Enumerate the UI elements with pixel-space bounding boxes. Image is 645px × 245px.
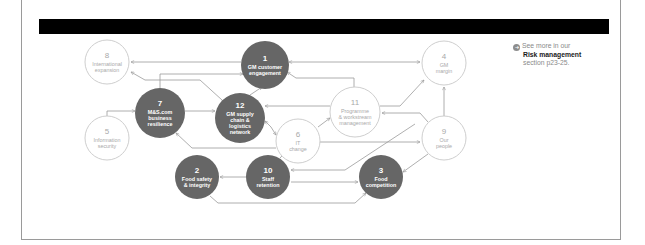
node-label: security [98, 143, 117, 149]
node-number: 2 [195, 166, 200, 175]
node-number: 8 [105, 51, 110, 60]
node-label: Our [440, 137, 449, 143]
node-label: GM supply [226, 111, 254, 117]
node-label: Staff [262, 176, 274, 182]
node-label: logistics [229, 123, 251, 129]
node-label: network [230, 129, 251, 135]
node-label: Food [374, 176, 387, 182]
node-label: GM customer [248, 64, 283, 70]
node-label: expansion [95, 67, 120, 73]
node-number: 11 [351, 98, 360, 107]
node-label: competition [366, 182, 397, 188]
risk-node-5: 5Informationsecurity [85, 116, 129, 160]
node-label: engagement [249, 70, 281, 76]
more-info-icon[interactable]: ➜ [513, 44, 520, 51]
risk-node-12: 12GM supplychain &logisticsnetwork [215, 93, 265, 143]
connector-6-to-11 [318, 118, 330, 127]
risk-node-6: 6ITchange [276, 119, 320, 163]
connector-11-to-4 [380, 80, 424, 106]
connector-5-to-7 [107, 111, 135, 116]
node-label: Information [94, 137, 121, 143]
note-line-3: section p23-25. [513, 59, 613, 67]
node-label: & workstream [339, 114, 372, 120]
node-label: International [92, 61, 122, 67]
node-number: 7 [158, 99, 163, 108]
node-label: retention [256, 182, 279, 188]
node-number: 4 [442, 52, 447, 61]
node-label: Food safety [182, 176, 212, 182]
node-label: chain & [230, 117, 250, 123]
node-label: management [339, 120, 371, 126]
risk-node-8: 8Internationalexpansion [85, 40, 129, 84]
node-number: 6 [296, 130, 301, 139]
risk-management-link[interactable]: Risk management [513, 51, 613, 59]
node-label: business [148, 115, 171, 121]
node-label: GM [440, 62, 449, 68]
node-label: change [289, 146, 307, 152]
connector-9-to-3 [403, 154, 428, 172]
connector-9-to-11 [382, 113, 428, 122]
risk-interconnection-diagram: 1GM customerengagement2Food safety& inte… [0, 0, 645, 245]
risk-node-10: 10Staffretention [246, 155, 290, 199]
node-label: margin [436, 68, 452, 74]
risk-node-3: 3Foodcompetition [359, 155, 403, 199]
node-label: & integrity [184, 182, 211, 188]
connector-11-to-1 [287, 72, 354, 87]
node-number: 5 [105, 127, 110, 136]
risk-node-4: 4GMmargin [422, 41, 466, 85]
node-number: 9 [442, 127, 447, 136]
risk-node-9: 9Ourpeople [422, 116, 466, 160]
connector-2-to-3 [210, 193, 366, 203]
node-number: 3 [379, 166, 384, 175]
note-line-1: See more in our [522, 42, 570, 49]
node-number: 10 [264, 166, 273, 175]
node-label: M&S.com [148, 109, 173, 115]
node-number: 12 [236, 101, 245, 110]
risk-nodes: 1GM customerengagement2Food safety& inte… [85, 40, 466, 199]
risk-node-1: 1GM customerengagement [241, 41, 289, 89]
risk-node-11: 11Programme& workstreammanagement [330, 87, 380, 137]
node-number: 1 [263, 54, 268, 63]
risk-node-2: 2Food safety& integrity [175, 155, 219, 199]
node-label: Programme [341, 108, 369, 114]
node-label: IT [296, 140, 301, 146]
see-more-note: ➜See more in our Risk management section… [513, 42, 613, 67]
node-label: people [436, 143, 452, 149]
node-label: resilience [148, 121, 173, 127]
risk-node-7: 7M&S.combusinessresilience [135, 88, 185, 138]
connector-12-to-6 [265, 121, 276, 135]
